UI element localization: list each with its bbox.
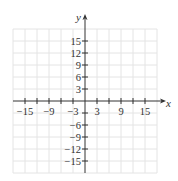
y-tick-label: 15 (71, 36, 82, 47)
y-axis (82, 19, 88, 173)
y-axis-label: y (75, 11, 81, 23)
y-tick-label: 6 (76, 72, 81, 83)
y-tick-label: 12 (71, 48, 82, 59)
y-tick-label: −12 (65, 144, 81, 155)
x-tick-label: 3 (94, 106, 99, 117)
x-tick-label: −3 (67, 106, 78, 117)
x-axis (13, 98, 162, 104)
x-tick-label: 15 (140, 106, 151, 117)
x-tick-label: 9 (118, 106, 123, 117)
x-tick-label: −9 (43, 106, 54, 117)
x-tick-label: −15 (17, 106, 33, 117)
y-tick-label: −6 (70, 120, 81, 131)
x-axis-label: x (165, 97, 171, 109)
y-tick-label: −15 (65, 156, 81, 167)
coordinate-plane: x y −15 −9 −3 3 9 15 15 12 9 6 3 −6 −9 −… (0, 0, 178, 181)
y-tick-label: 9 (76, 60, 81, 71)
y-tick-label: −9 (70, 132, 81, 143)
y-tick-label: 3 (76, 84, 81, 95)
